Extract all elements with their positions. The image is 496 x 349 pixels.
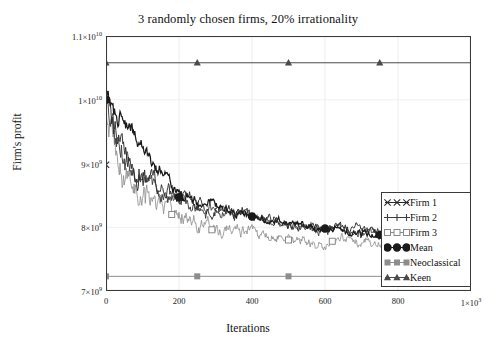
series-marker: [384, 214, 391, 221]
series-marker: [286, 273, 292, 279]
series-marker: [286, 237, 292, 243]
legend-label: Firm 2: [410, 211, 437, 224]
series-marker: [393, 214, 400, 221]
legend-item-keen[interactable]: Keen: [382, 270, 470, 285]
series-marker: [209, 227, 215, 233]
legend-label: Mean: [410, 241, 433, 254]
chart-figure: 3 randomly chosen firms, 20% irrationali…: [0, 0, 496, 349]
plus-marker-icon: [384, 211, 410, 224]
x-marker-icon: [384, 196, 410, 209]
series-marker: [329, 238, 335, 244]
series-marker: [285, 59, 292, 66]
series-marker: [404, 260, 410, 266]
x-tick-label: 600: [303, 296, 347, 306]
series-marker: [393, 243, 401, 251]
series-marker: [384, 243, 392, 251]
legend-item-neoclassical[interactable]: Neoclassical: [382, 255, 470, 270]
y-tick-label: 1×1010: [58, 94, 102, 106]
chart-legend[interactable]: Firm 1Firm 2Firm 3MeanNeoclassicalKeen: [381, 192, 471, 287]
legend-label: Firm 1: [410, 196, 437, 209]
x-tick-label: 0: [84, 296, 128, 306]
series-marker: [403, 214, 410, 221]
y-tick-label: 1.1×1010: [58, 30, 102, 42]
y-tick-label: 8×109: [58, 221, 102, 233]
series-marker: [169, 212, 175, 218]
series-marker: [175, 193, 183, 201]
series-marker: [321, 224, 329, 232]
y-axis-label: Firm's profit: [11, 94, 23, 190]
y-tick-label: 9×109: [58, 158, 102, 170]
series-marker: [402, 243, 410, 251]
series-marker: [194, 59, 201, 66]
series-marker: [194, 273, 200, 279]
chart-title: 3 randomly chosen firms, 20% irrationali…: [0, 12, 496, 27]
legend-item-firm-2[interactable]: Firm 2: [382, 210, 470, 225]
series-marker: [376, 59, 383, 66]
series-marker: [394, 230, 400, 236]
legend-label: Firm 3: [410, 226, 437, 239]
x-tick-label: 400: [230, 296, 274, 306]
x-tick-label: 1×103: [449, 296, 493, 308]
series-marker: [385, 260, 391, 266]
legend-label: Neoclassical: [410, 256, 461, 269]
legend-item-mean[interactable]: Mean: [382, 240, 470, 255]
series-marker: [404, 230, 410, 236]
square-filled-marker-icon: [384, 256, 410, 269]
series-keen: [106, 59, 471, 66]
square-open-marker-icon: [384, 226, 410, 239]
x-axis-label: Iterations: [0, 322, 496, 334]
series-marker: [394, 260, 400, 266]
x-tick-label: 200: [157, 296, 201, 306]
legend-item-firm-1[interactable]: Firm 1: [382, 195, 470, 210]
legend-label: Keen: [410, 271, 431, 284]
legend-item-firm-3[interactable]: Firm 3: [382, 225, 470, 240]
x-tick-label: 800: [376, 296, 420, 306]
triangle-filled-marker-icon: [384, 271, 410, 284]
series-marker: [385, 230, 391, 236]
series-marker: [248, 212, 256, 220]
circle-filled-marker-icon: [384, 241, 410, 254]
